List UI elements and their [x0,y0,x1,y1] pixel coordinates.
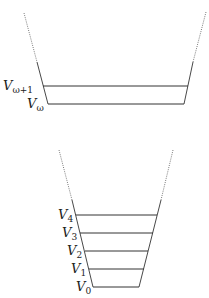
label-v-omega: Vω [27,96,44,113]
top-right-edge [184,62,193,104]
bottom-funnel: V4 V3 V2 V1 V0 [58,150,173,296]
top-left-edge [37,62,48,104]
top-right-dotted-edge [193,12,206,62]
label-v2: V2 [67,243,82,260]
label-v1: V1 [71,261,86,278]
diagram-canvas: Vω+1 Vω V4 V3 V2 V1 V0 [0,0,209,298]
label-v3: V3 [62,225,77,242]
label-v-omega-plus-1: Vω+1 [3,78,33,95]
top-left-dotted-edge [24,13,37,62]
bottom-right-dotted-edge [161,150,173,200]
top-funnel: Vω+1 Vω [3,12,206,113]
label-v4: V4 [58,207,73,224]
bottom-right-edge [139,200,161,287]
label-v0: V0 [76,279,91,296]
bottom-left-dotted-edge [59,150,72,200]
